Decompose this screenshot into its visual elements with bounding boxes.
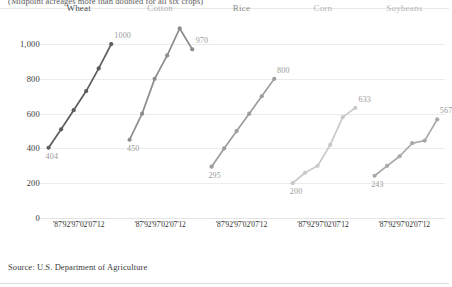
x-axis-tick-label: '92 <box>387 220 396 229</box>
series-line-wheat <box>38 18 119 218</box>
x-axis-tick-label: '12 <box>340 220 349 229</box>
x-axis-tick-label: '97 <box>396 220 405 229</box>
x-axis-tick-label: '97 <box>233 220 242 229</box>
x-axis: '87'92'97'02'07'12 <box>119 220 200 229</box>
chart-panels: Wheat4041000'87'92'97'02'07'12Cotton4509… <box>38 18 445 246</box>
panel-title: Wheat <box>38 3 119 13</box>
x-axis-tick-label: '02 <box>323 220 332 229</box>
series-line-rice <box>201 18 282 218</box>
panel-title: Corn <box>282 3 363 13</box>
x-axis-tick-label: '02 <box>79 220 88 229</box>
x-axis-tick-label: '07 <box>331 220 340 229</box>
data-point-label: 404 <box>46 152 59 161</box>
x-axis-tick-label: '02 <box>404 220 413 229</box>
x-axis-tick-label: '92 <box>62 220 71 229</box>
x-axis-tick-label: '97 <box>314 220 323 229</box>
data-point-label: 243 <box>371 180 384 189</box>
x-axis: '87'92'97'02'07'12 <box>282 220 363 229</box>
panel-cotton: Cotton450970'87'92'97'02'07'12 <box>119 18 200 246</box>
panel-wheat: Wheat4041000'87'92'97'02'07'12 <box>38 18 119 246</box>
x-axis-tick-label: '02 <box>160 220 169 229</box>
x-axis-tick-label: '92 <box>306 220 315 229</box>
panel-rice: Rice295800'87'92'97'02'07'12 <box>201 18 282 246</box>
data-point-label: 450 <box>127 144 140 153</box>
bottom-divider <box>0 283 449 284</box>
source-note: Source: U.S. Department of Agriculture <box>8 262 147 272</box>
x-axis-tick-label: '12 <box>259 220 268 229</box>
panel-title: Rice <box>201 3 282 13</box>
x-axis-tick-label: '12 <box>421 220 430 229</box>
x-axis-tick-label: '07 <box>87 220 96 229</box>
x-axis-tick-label: '97 <box>152 220 161 229</box>
x-axis-tick-label: '87 <box>216 220 225 229</box>
x-axis-tick-label: '87 <box>297 220 306 229</box>
x-axis-tick-label: '97 <box>70 220 79 229</box>
data-point-label: 295 <box>208 171 221 180</box>
x-axis: '87'92'97'02'07'12 <box>364 220 445 229</box>
data-point-label: 200 <box>290 187 303 196</box>
x-axis-tick-label: '12 <box>96 220 105 229</box>
x-axis: '87'92'97'02'07'12 <box>38 220 119 229</box>
panel-soybeans: Soybeans243567'87'92'97'02'07'12 <box>364 18 445 246</box>
panel-corn: Corn200633'87'92'97'02'07'12 <box>282 18 363 246</box>
x-axis-tick-label: '07 <box>169 220 178 229</box>
x-axis-tick-label: '07 <box>250 220 259 229</box>
series-line-cotton <box>119 18 200 218</box>
x-axis-tick-label: '07 <box>413 220 422 229</box>
data-point-label: 567 <box>440 106 452 115</box>
x-axis-tick-label: '92 <box>224 220 233 229</box>
x-axis-tick-label: '87 <box>134 220 143 229</box>
x-axis-tick-label: '87 <box>379 220 388 229</box>
x-axis-tick-label: '92 <box>143 220 152 229</box>
x-axis-tick-label: '87 <box>53 220 62 229</box>
panel-title: Soybeans <box>364 3 445 13</box>
y-axis-tick-label: 1,000 <box>20 39 40 49</box>
x-axis-tick-label: '02 <box>241 220 250 229</box>
panel-title: Cotton <box>119 3 200 13</box>
x-axis-tick-label: '12 <box>177 220 186 229</box>
x-axis: '87'92'97'02'07'12 <box>201 220 282 229</box>
